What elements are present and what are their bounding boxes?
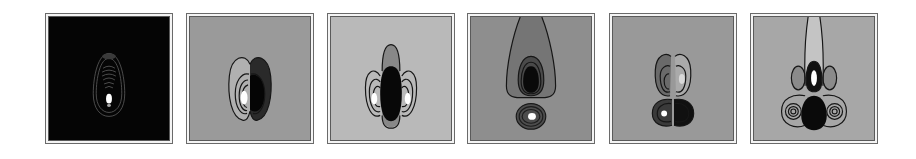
contour-panel-1: [45, 13, 173, 144]
contour-plot: [49, 17, 169, 140]
contour-panel-4: [467, 13, 595, 144]
panel-field: [470, 16, 592, 141]
contour-plot: [190, 17, 310, 140]
contour-plot: [471, 17, 591, 140]
panel-field: [189, 16, 311, 141]
contour-panel-6: [750, 13, 878, 144]
contour-plot: [613, 17, 733, 140]
contour-panel-3: [327, 13, 455, 144]
panel-field: [330, 16, 452, 141]
contour-plot: [331, 17, 451, 140]
contour-panel-5: [609, 13, 737, 144]
panel-field: [612, 16, 734, 141]
panel-field: [48, 16, 170, 141]
contour-plot: [754, 17, 874, 140]
contour-panel-2: [186, 13, 314, 144]
panel-field: [753, 16, 875, 141]
